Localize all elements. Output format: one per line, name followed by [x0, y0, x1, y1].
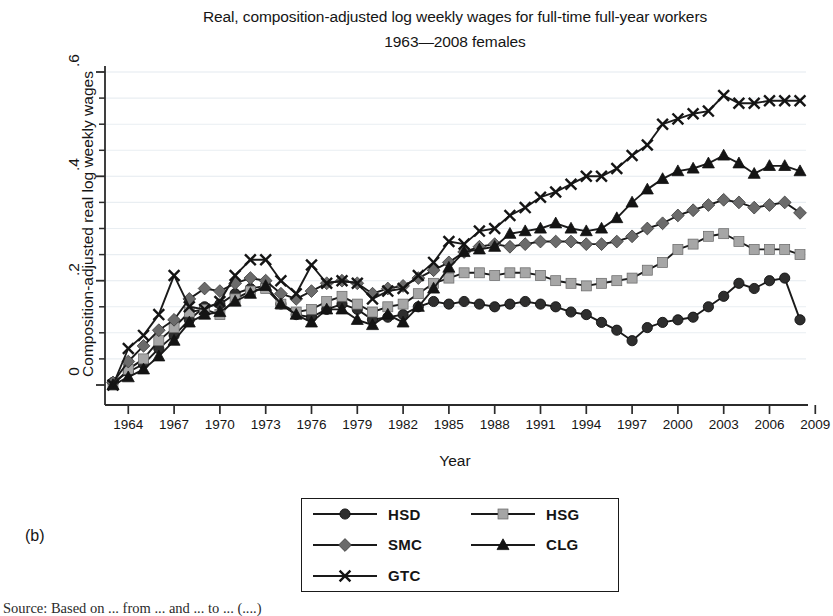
legend-label: GTC: [388, 567, 421, 584]
x-tick-label: 1991: [517, 417, 563, 432]
panel-label: (b): [25, 527, 45, 545]
y-tick-label: .4: [65, 158, 83, 192]
x-tick-label: 1994: [563, 417, 609, 432]
x-tick-label: 2009: [792, 417, 833, 432]
legend-item-hsg[interactable]: HSG: [460, 499, 618, 530]
series-hsg: [108, 229, 805, 390]
legend-label: CLG: [546, 536, 579, 553]
y-tick-label: .6: [65, 54, 83, 88]
series-clg: [107, 149, 806, 389]
legend-label: HSD: [388, 506, 421, 523]
figure-panel: Real, composition-adjusted log weekly wa…: [0, 0, 833, 616]
x-tick-label: 1967: [151, 417, 197, 432]
x-tick-label: 1988: [472, 417, 518, 432]
x-tick-label: 2000: [655, 417, 701, 432]
cross-marker-icon: [311, 566, 379, 586]
x-tick-label: 1976: [288, 417, 334, 432]
gridlines: [106, 72, 806, 359]
x-tick-label: 2003: [701, 417, 747, 432]
x-tick-label: 1982: [380, 417, 426, 432]
x-tick-label: 2006: [746, 417, 792, 432]
figure-caption: Source: Based on ... from ... and ... to…: [3, 600, 829, 616]
x-tick-label: 1985: [426, 417, 472, 432]
x-tick-label: 1970: [197, 417, 243, 432]
legend-label: SMC: [388, 536, 422, 553]
y-tick-label: 0: [65, 367, 83, 401]
legend-item-smc[interactable]: SMC: [302, 530, 460, 561]
legend-item-hsd[interactable]: HSD: [302, 499, 460, 530]
x-tick-label: 1964: [105, 417, 151, 432]
diamond-marker-icon: [311, 535, 379, 555]
x-tick-label: 1997: [609, 417, 655, 432]
square-marker-icon: [469, 504, 537, 524]
legend-item-clg[interactable]: CLG: [460, 530, 618, 561]
legend-item-gtc[interactable]: GTC: [302, 560, 460, 591]
y-tick-label: .2: [65, 263, 83, 297]
legend-label: HSG: [546, 506, 579, 523]
x-tick-label: 1973: [243, 417, 289, 432]
triangle-marker-icon: [469, 535, 537, 555]
x-tick-label: 1979: [334, 417, 380, 432]
legend-box: HSDHSGSMCCLGGTC: [301, 498, 619, 592]
circle-marker-icon: [311, 504, 379, 524]
series-smc: [107, 193, 807, 388]
